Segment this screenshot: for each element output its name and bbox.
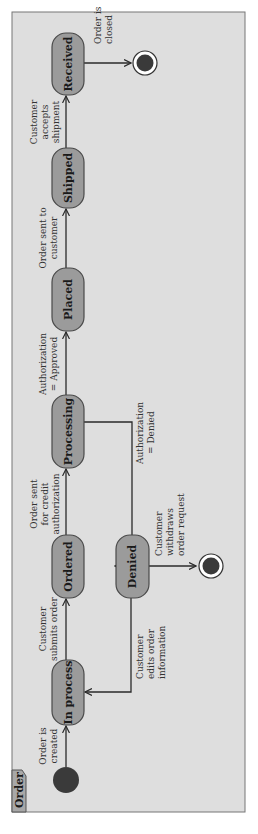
- label-order-created: Order is created: [38, 727, 59, 765]
- label-credit-authorization: Order sent for credit authorization: [29, 473, 61, 534]
- svg-text:Authorization: Authorization: [38, 333, 48, 396]
- svg-text:accepts: accepts: [40, 104, 50, 139]
- svg-text:Order sent: Order sent: [29, 479, 39, 529]
- svg-text:Customer: Customer: [154, 511, 164, 556]
- label-approved: Authorization = Approved: [38, 333, 59, 396]
- svg-text:Order is: Order is: [93, 6, 103, 44]
- svg-text:shipment: shipment: [51, 100, 61, 143]
- state-shipped: Shipped: [52, 148, 84, 208]
- svg-text:customer: customer: [49, 216, 59, 259]
- svg-text:Shipped: Shipped: [62, 153, 75, 204]
- final-node-closed: [133, 51, 157, 75]
- svg-text:Order sent to: Order sent to: [38, 207, 48, 268]
- svg-text:closed: closed: [104, 15, 114, 44]
- state-diagram: Order In process Ordered Processing Plac…: [0, 0, 258, 834]
- state-placed: Placed: [52, 268, 84, 331]
- frame-title: Order: [13, 772, 26, 808]
- label-submits-order: Customer submits order: [38, 596, 59, 660]
- svg-text:= Approved: = Approved: [49, 337, 59, 392]
- initial-node: [53, 767, 79, 793]
- svg-text:Customer: Customer: [135, 634, 145, 679]
- svg-text:for credit: for credit: [40, 482, 50, 525]
- svg-text:Ordered: Ordered: [62, 541, 75, 592]
- svg-text:Authorization: Authorization: [135, 402, 145, 465]
- svg-text:created: created: [49, 728, 59, 763]
- final-node-withdrawn: [199, 554, 223, 578]
- svg-text:order request: order request: [176, 493, 186, 556]
- svg-text:Denied: Denied: [126, 544, 139, 588]
- state-ordered: Ordered: [52, 535, 84, 598]
- svg-text:Received: Received: [62, 36, 75, 91]
- state-denied: Denied: [116, 535, 149, 598]
- state-received: Received: [52, 33, 84, 95]
- state-in-process: In process: [52, 660, 84, 725]
- svg-text:withdraws: withdraws: [165, 508, 175, 556]
- svg-text:submits order: submits order: [49, 596, 59, 660]
- svg-text:Customer: Customer: [38, 606, 48, 651]
- svg-text:Placed: Placed: [62, 279, 75, 320]
- svg-text:authorization: authorization: [51, 473, 61, 534]
- svg-text:Order is: Order is: [38, 727, 48, 765]
- svg-text:edits order: edits order: [146, 628, 156, 679]
- state-diagram-canvas: Order In process Ordered Processing Plac…: [0, 0, 258, 834]
- svg-text:Processing: Processing: [62, 398, 75, 466]
- svg-text:= Denied: = Denied: [146, 411, 156, 454]
- svg-text:In process: In process: [62, 661, 75, 725]
- svg-text:Customer: Customer: [29, 99, 39, 144]
- label-accepts-shipment: Customer accepts shipment: [29, 99, 61, 144]
- state-processing: Processing: [52, 395, 84, 468]
- svg-text:information: information: [157, 625, 167, 679]
